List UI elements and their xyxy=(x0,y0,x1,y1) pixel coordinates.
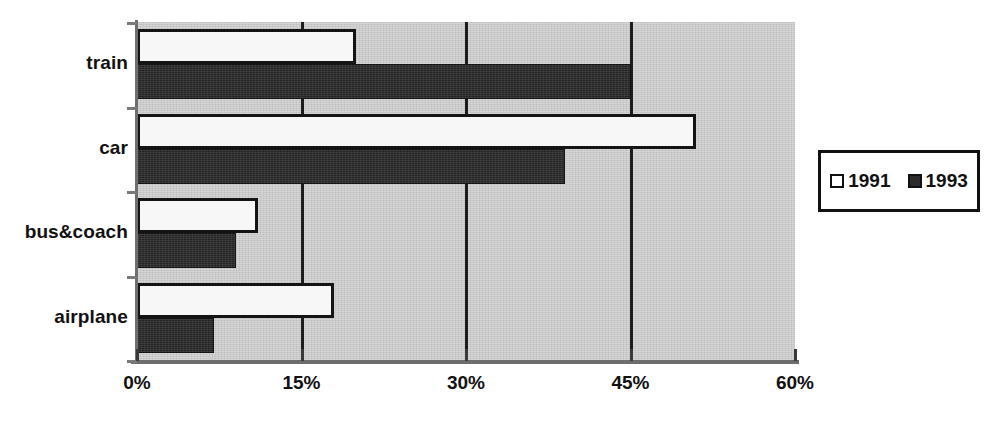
legend-entry-1993: 1993 xyxy=(908,170,968,192)
x-tick-0% xyxy=(136,349,139,361)
x-tick-45% xyxy=(630,349,633,361)
bar-airplane-1993 xyxy=(137,318,214,353)
bar-train-1991 xyxy=(137,29,356,64)
bar-bus-coach-1993 xyxy=(137,233,236,268)
bar-chart: traincarbus&coachairplane 0%15%30%45%60%… xyxy=(0,0,1000,435)
bar-car-1993 xyxy=(137,149,565,184)
bar-car-1991 xyxy=(137,114,696,149)
x-tick-label-45%: 45% xyxy=(586,372,676,394)
x-tick-label-15%: 15% xyxy=(257,372,347,394)
x-tick-30% xyxy=(465,349,468,361)
y-tick-3 xyxy=(127,276,137,279)
legend-label-1993: 1993 xyxy=(926,170,968,192)
plot-area xyxy=(137,22,795,360)
category-label-train: train xyxy=(86,52,128,74)
chart-legend: 1991 1993 xyxy=(818,150,980,212)
category-label-bus-coach: bus&coach xyxy=(25,221,128,243)
x-tick-label-0%: 0% xyxy=(92,372,182,394)
category-label-car: car xyxy=(99,137,128,159)
bar-airplane-1991 xyxy=(137,283,334,318)
legend-swatch-1991-icon xyxy=(830,174,844,188)
y-tick-1 xyxy=(127,107,137,110)
x-tick-15% xyxy=(301,349,304,361)
bar-train-1993 xyxy=(137,64,631,99)
category-label-airplane: airplane xyxy=(54,306,128,328)
legend-label-1991: 1991 xyxy=(848,170,890,192)
x-tick-label-60%: 60% xyxy=(750,372,840,394)
legend-entry-1991: 1991 xyxy=(830,170,890,192)
y-tick-2 xyxy=(127,191,137,194)
y-tick-0 xyxy=(127,22,137,25)
legend-swatch-1993-icon xyxy=(908,174,922,188)
x-tick-60% xyxy=(794,349,797,361)
x-tick-label-30%: 30% xyxy=(421,372,511,394)
bar-bus-coach-1991 xyxy=(137,198,258,233)
